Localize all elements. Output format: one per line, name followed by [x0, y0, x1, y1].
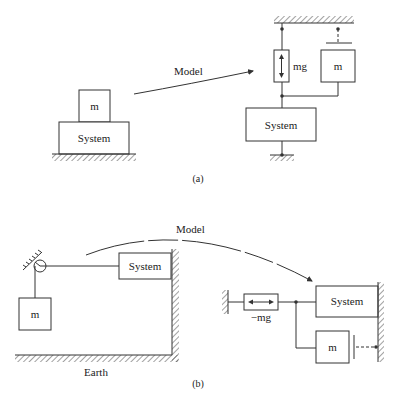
source-label: mg: [293, 60, 308, 72]
panel-b-model: −mg System m: [222, 282, 384, 363]
caption-b: (b): [192, 378, 204, 390]
node-dot: [280, 94, 284, 98]
diagram-canvas: m System Model mg m: [0, 0, 397, 401]
ground-hatch: [52, 154, 136, 161]
system-label: System: [265, 119, 298, 131]
mass-label: m: [334, 60, 343, 72]
earth-hatch-right: [172, 249, 179, 362]
panel-a: m System Model mg m: [52, 16, 355, 185]
system-label: System: [129, 260, 162, 272]
wall-hatch-left: [222, 290, 228, 314]
node-dot: [374, 345, 378, 349]
system-label: System: [331, 295, 364, 307]
panel-b-physical: m System Earth: [15, 249, 179, 378]
mass-label: m: [328, 341, 337, 353]
ground-hatch: [270, 155, 294, 161]
model-arrow-label: Model: [174, 65, 203, 77]
wire: [282, 82, 338, 96]
panel-a-physical: m System: [52, 90, 136, 161]
panel-b: m System Earth Model −mg System: [15, 223, 384, 390]
caption-a: (a): [192, 173, 203, 185]
wire: [296, 302, 316, 348]
earth-hatch-bottom: [15, 355, 178, 362]
mass-label: m: [90, 100, 99, 112]
model-arrow-label: Model: [176, 223, 205, 235]
panel-a-model: mg m System: [246, 16, 355, 161]
mass-label: m: [31, 308, 40, 320]
source-label: −mg: [251, 311, 272, 323]
ceiling-hatch: [274, 16, 354, 23]
system-label: System: [78, 132, 111, 144]
earth-label: Earth: [84, 366, 108, 378]
wall-hatch-right: [378, 282, 384, 362]
